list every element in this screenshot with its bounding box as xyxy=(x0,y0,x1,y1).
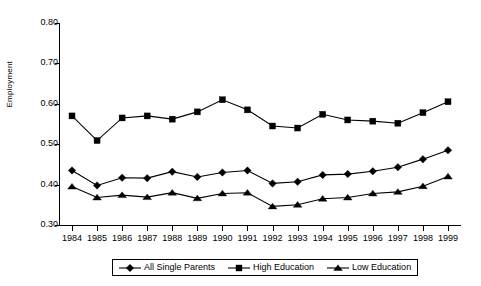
x-tick-mark xyxy=(147,226,148,231)
y-tick-mark xyxy=(55,104,60,105)
series-line xyxy=(72,177,448,207)
employment-line-chart: Employment 0.800.700.600.500.400.30 1984… xyxy=(0,0,481,286)
x-tick-mark xyxy=(247,226,248,231)
series-layer xyxy=(60,23,460,225)
data-point-square xyxy=(194,109,200,115)
data-point-diamond xyxy=(369,168,377,176)
y-axis-tick-labels: 0.800.700.600.500.400.30 xyxy=(20,0,58,286)
legend-item[interactable]: Low Education xyxy=(327,262,411,273)
series-line xyxy=(72,150,448,185)
data-point-diamond xyxy=(294,178,302,186)
data-point-triangle xyxy=(68,183,77,189)
data-point-square xyxy=(144,113,150,119)
series-line xyxy=(72,100,448,141)
x-tick-mark xyxy=(348,226,349,231)
x-tick-label: 1999 xyxy=(428,233,468,243)
data-point-diamond xyxy=(219,169,227,177)
y-tick-mark xyxy=(55,185,60,186)
legend-item[interactable]: High Education xyxy=(228,262,314,273)
legend-label: Low Education xyxy=(352,262,411,273)
y-tick-label: 0.70 xyxy=(24,58,58,67)
data-point-square xyxy=(94,138,100,144)
data-point-diamond xyxy=(143,174,151,182)
data-point-square xyxy=(270,123,276,129)
x-tick-mark xyxy=(373,226,374,231)
y-tick-label: 0.40 xyxy=(24,180,58,189)
x-tick-mark xyxy=(72,226,73,231)
x-tick-mark xyxy=(122,226,123,231)
data-point-square xyxy=(236,265,242,271)
data-point-diamond xyxy=(419,155,427,163)
data-point-square xyxy=(320,111,326,117)
x-tick-mark xyxy=(298,226,299,231)
data-point-diamond xyxy=(244,167,252,175)
y-tick-mark xyxy=(55,225,60,226)
data-point-square xyxy=(169,116,175,122)
data-point-square xyxy=(370,118,376,124)
data-point-square xyxy=(69,113,75,119)
data-point-diamond xyxy=(394,163,402,171)
x-tick-mark xyxy=(398,226,399,231)
y-tick-label: 0.80 xyxy=(24,18,58,27)
x-tick-mark xyxy=(423,226,424,231)
legend-item[interactable]: All Single Parents xyxy=(119,262,215,273)
data-point-square xyxy=(345,117,351,123)
data-point-square xyxy=(295,125,301,131)
data-point-square xyxy=(219,97,225,103)
y-axis-title: Employment xyxy=(5,94,14,108)
legend-label: All Single Parents xyxy=(144,262,215,273)
plot-area xyxy=(60,23,460,225)
data-point-square xyxy=(119,115,125,121)
chart-legend: All Single ParentsHigh EducationLow Educ… xyxy=(112,259,418,276)
series-low-education xyxy=(68,173,453,209)
legend-marker-triangle-icon xyxy=(327,263,349,273)
x-axis-line xyxy=(59,225,461,226)
x-tick-mark xyxy=(222,226,223,231)
x-tick-mark xyxy=(448,226,449,231)
y-tick-mark xyxy=(55,63,60,64)
y-tick-mark xyxy=(55,144,60,145)
series-high-education xyxy=(69,97,451,144)
y-tick-label: 0.30 xyxy=(24,220,58,229)
x-tick-mark xyxy=(273,226,274,231)
data-point-diamond xyxy=(269,180,277,188)
data-point-square xyxy=(420,110,426,116)
y-tick-mark xyxy=(55,23,60,24)
data-point-diamond xyxy=(169,168,177,176)
data-point-triangle xyxy=(419,183,428,189)
data-point-diamond xyxy=(118,174,126,182)
data-point-triangle xyxy=(168,189,177,195)
data-point-diamond xyxy=(319,171,327,179)
data-point-diamond xyxy=(194,173,202,181)
data-point-square xyxy=(244,107,250,113)
data-point-diamond xyxy=(68,167,76,175)
x-tick-mark xyxy=(323,226,324,231)
y-tick-label: 0.60 xyxy=(24,99,58,108)
x-tick-mark xyxy=(172,226,173,231)
data-point-diamond xyxy=(126,264,134,272)
data-point-triangle xyxy=(444,173,453,179)
legend-marker-diamond-icon xyxy=(119,263,141,273)
x-tick-mark xyxy=(197,226,198,231)
x-tick-mark xyxy=(97,226,98,231)
y-tick-label: 0.50 xyxy=(24,139,58,148)
legend-label: High Education xyxy=(253,262,314,273)
data-point-diamond xyxy=(444,147,452,154)
series-all-single-parents xyxy=(68,147,452,190)
data-point-square xyxy=(395,120,401,126)
data-point-triangle xyxy=(118,192,127,198)
data-point-diamond xyxy=(344,170,352,178)
data-point-square xyxy=(445,99,451,105)
legend-marker-square-icon xyxy=(228,263,250,273)
data-point-diamond xyxy=(93,182,101,190)
